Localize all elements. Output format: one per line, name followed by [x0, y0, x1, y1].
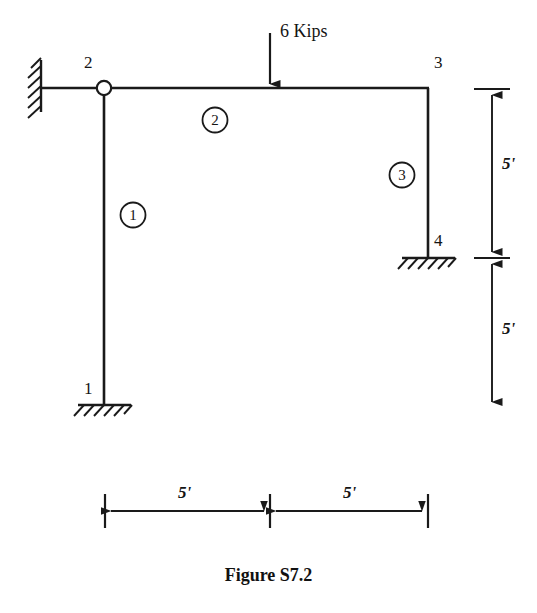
wall-support-icon: [28, 58, 41, 118]
horizontal-dim-label-right: 5': [343, 484, 356, 501]
node-label-1: 1: [84, 380, 93, 397]
member-label-3: 3: [389, 168, 415, 183]
frame-diagram-svg: [0, 0, 537, 613]
figure-caption: Figure S7.2: [0, 565, 537, 586]
load-label: 6 Kips: [280, 22, 328, 40]
vertical-dim-label-top: 5': [502, 155, 515, 172]
member-label-2: 2: [202, 113, 228, 128]
support-node-1-icon: [74, 405, 132, 416]
node-label-2: 2: [84, 54, 93, 71]
hinge-circle-icon: [97, 81, 111, 95]
node-label-4: 4: [434, 232, 443, 249]
node-label-3: 3: [434, 54, 443, 71]
vertical-dim-label-bottom: 5': [502, 320, 515, 337]
horizontal-dim-label-left: 5': [178, 484, 191, 501]
structural-frame-figure: 2 3 1 4 1 2 3 6 Kips 5' 5' 5' 5' Figure …: [0, 0, 537, 613]
support-node-4-icon: [398, 258, 456, 269]
member-label-1: 1: [120, 208, 146, 223]
